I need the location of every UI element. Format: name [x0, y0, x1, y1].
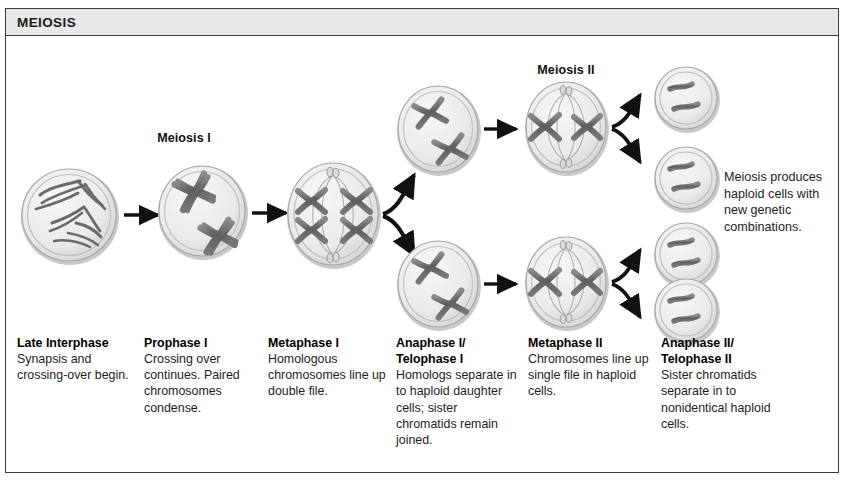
- caption-body: Homologs separate in to haploid daughter…: [396, 367, 518, 448]
- caption-body: Sister chromatids separate in to noniden…: [661, 367, 786, 432]
- cell-prophase-1: [158, 166, 248, 260]
- cell-anaphase-1-top: [397, 86, 481, 176]
- diagram-canvas: [6, 9, 840, 339]
- cell-haploid-1: [654, 67, 720, 133]
- caption-heading: Late Interphase: [17, 335, 139, 351]
- caption-metaphase-2: Metaphase II Chromosomes line up single …: [528, 335, 650, 400]
- caption-body: Chromosomes line up single file in haplo…: [528, 351, 650, 399]
- cell-metaphase-1: [287, 163, 381, 269]
- arrow-branch-meiosis2-bottom: [612, 250, 640, 317]
- cell-late-interphase: [21, 169, 119, 265]
- caption-heading: Metaphase II: [528, 335, 650, 351]
- arrow-branch-meiosis2-top: [612, 95, 640, 162]
- caption-body: Crossing over continues. Paired chromoso…: [144, 351, 259, 416]
- cell-metaphase-2-top: [525, 82, 609, 176]
- arrow-branch-meiosis1: [383, 175, 414, 255]
- caption-body: Homologous chromosomes line up double fi…: [268, 351, 386, 399]
- caption-metaphase-1: Metaphase I Homologous chromosomes line …: [268, 335, 386, 400]
- caption-body: Synapsis and crossing-over begin.: [17, 351, 139, 383]
- cell-haploid-2: [654, 147, 720, 213]
- caption-anaphase-telophase-2: Anaphase II/ Telophase II Sister chromat…: [661, 335, 786, 432]
- cell-anaphase-1-bottom: [397, 241, 481, 331]
- caption-prophase-1: Prophase I Crossing over continues. Pair…: [144, 335, 259, 416]
- meiosis-figure: MEIOSIS Meiosis I Meiosis II Meiosis pro…: [5, 8, 839, 473]
- cell-metaphase-2-bottom: [525, 237, 609, 331]
- caption-heading: Anaphase II/ Telophase II: [661, 335, 786, 367]
- caption-heading: Metaphase I: [268, 335, 386, 351]
- caption-heading: Anaphase I/ Telophase I: [396, 335, 518, 367]
- caption-anaphase-telophase-1: Anaphase I/ Telophase I Homologs separat…: [396, 335, 518, 448]
- caption-heading: Prophase I: [144, 335, 259, 351]
- caption-late-interphase: Late Interphase Synapsis and crossing-ov…: [17, 335, 139, 383]
